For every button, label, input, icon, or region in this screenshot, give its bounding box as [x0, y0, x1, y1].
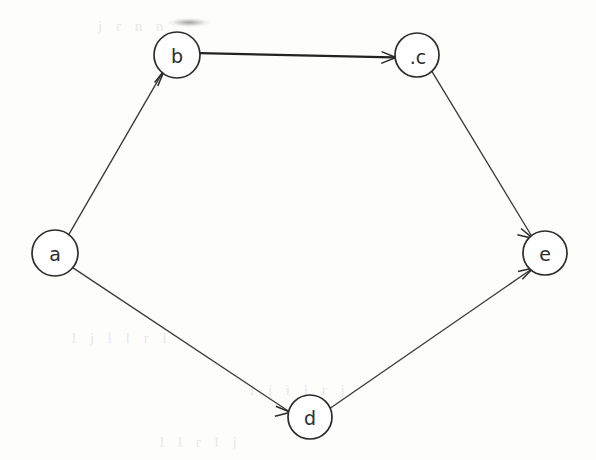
node-b-label: b: [171, 45, 183, 67]
edge-b-to-c-line: [200, 53, 393, 57]
node-a-label: a: [49, 243, 61, 265]
graph-svg: a b .c d e: [0, 0, 596, 460]
node-a[interactable]: a: [32, 230, 78, 276]
diagram-canvas: j r n n l j l l r l i j i l r j l l r l …: [0, 0, 596, 460]
edge-c-to-e[interactable]: [432, 71, 533, 238]
node-b[interactable]: b: [154, 32, 200, 78]
edge-c-to-e-line: [432, 71, 532, 236]
node-c[interactable]: .c: [395, 33, 439, 77]
edge-d-to-e-line: [331, 270, 532, 409]
edge-a-to-b[interactable]: [69, 70, 165, 234]
edge-d-to-e[interactable]: [331, 268, 534, 408]
edge-b-to-c[interactable]: [200, 52, 396, 64]
node-c-label: .c: [410, 46, 427, 68]
node-e[interactable]: e: [523, 231, 567, 275]
edge-a-to-d[interactable]: [72, 267, 290, 416]
node-e-label: e: [539, 243, 551, 265]
edge-a-to-b-line: [69, 71, 163, 234]
edge-a-to-d-line: [72, 267, 288, 411]
node-d-label: d: [304, 407, 316, 429]
node-d[interactable]: d: [288, 395, 332, 439]
